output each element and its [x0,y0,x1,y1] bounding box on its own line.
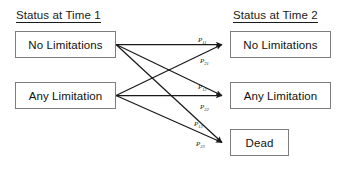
target-state-any-limitation[interactable]: Any Limitation [230,82,331,109]
column-header-time-1: Status at Time 1 [16,8,101,23]
source-state-any-limitation[interactable]: Any Limitation [15,82,116,109]
source-state-any-limitation-label: Any Limitation [29,90,103,102]
target-state-no-limitations[interactable]: No Limitations [230,31,331,58]
transition-label-p22: P22 [200,103,209,112]
column-header-time-2: Status at Time 2 [233,8,318,23]
transition-label-p13: P13 [194,120,203,129]
source-state-no-limitations[interactable]: No Limitations [15,31,116,58]
target-state-dead-label: Dead [246,137,274,149]
target-state-no-limitations-label: No Limitations [243,39,317,51]
transition-label-p23: P23 [196,140,205,149]
transition-diagram: Status at Time 1 Status at Time 2 No Lim… [0,0,344,170]
source-state-no-limitations-label: No Limitations [28,39,102,51]
transition-label-p21: P21 [200,57,209,66]
transition-label-p11: P11 [198,36,206,45]
transition-label-p12: P12 [198,83,207,92]
target-state-dead[interactable]: Dead [230,129,289,156]
target-state-any-limitation-label: Any Limitation [244,90,318,102]
